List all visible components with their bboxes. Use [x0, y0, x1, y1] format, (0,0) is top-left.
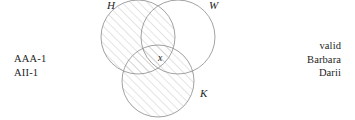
premise-line-aii1: AII-1	[14, 66, 47, 80]
circle-label-k: K	[199, 87, 208, 99]
circle-label-h: H	[106, 0, 116, 11]
verdict-validity: valid	[307, 39, 341, 53]
premise-line-aaa1: AAA-1	[14, 52, 47, 66]
venn-diagram: H W K x	[0, 0, 355, 120]
premise-list: AAA-1 AII-1	[14, 52, 47, 79]
existential-marker-x: x	[157, 53, 163, 63]
verdict-mood-darii: Darii	[307, 66, 341, 80]
verdict-list: valid Barbara Darii	[307, 39, 341, 80]
verdict-mood-barbara: Barbara	[307, 53, 341, 67]
circle-label-w: W	[209, 0, 219, 11]
